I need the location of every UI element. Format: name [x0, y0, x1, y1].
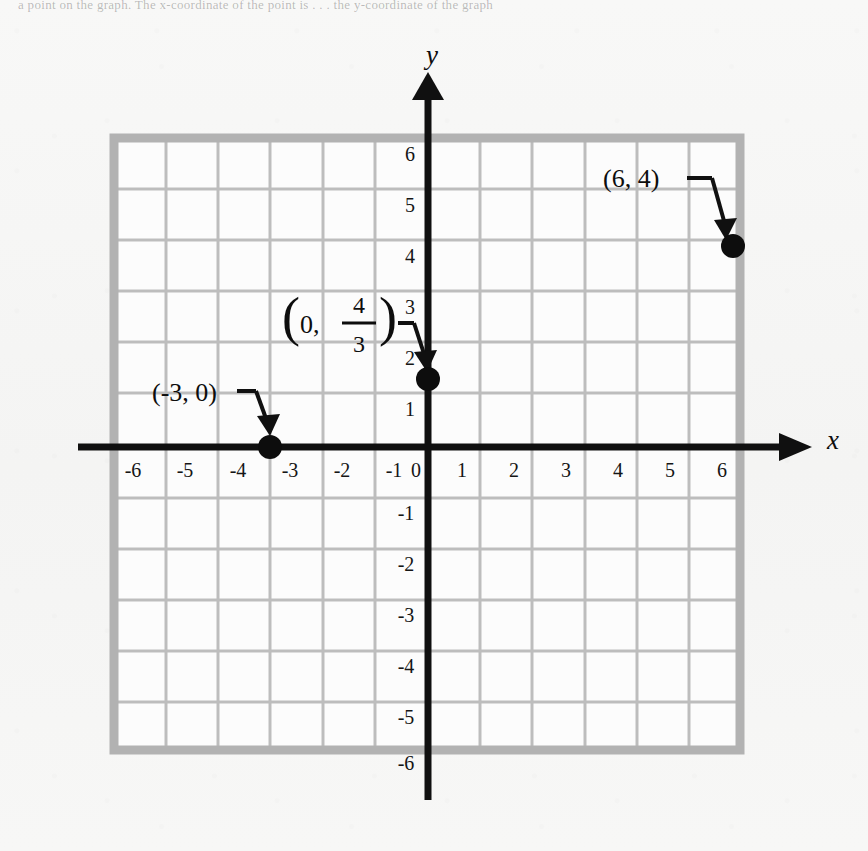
x-tick-5: 5 [665, 459, 675, 481]
y-tick--1: -1 [398, 502, 415, 524]
y-tick-3: 3 [405, 296, 415, 318]
annotation-label-6-4: (6, 4) [603, 164, 659, 193]
y-tick-1: 1 [405, 398, 415, 420]
annotation-paren-open-fourthirds: ( [282, 287, 300, 347]
y-tick--6: -6 [398, 752, 415, 774]
x-tick-4: 4 [613, 459, 623, 481]
graph-svg: x y -6 -5 -4 -3 -2 -1 0 1 2 3 4 5 6 6 5 … [0, 0, 868, 851]
y-tick-5: 5 [405, 194, 415, 216]
y-tick--5: -5 [398, 706, 415, 728]
x-tick--6: -6 [125, 459, 142, 481]
coordinate-plane-figure: x y -6 -5 -4 -3 -2 -1 0 1 2 3 4 5 6 6 5 … [0, 0, 868, 851]
annotation-label-prefix-fourthirds: 0, [300, 310, 320, 339]
x-tick-3: 3 [561, 459, 571, 481]
x-tick-2: 2 [509, 459, 519, 481]
y-tick-2: 2 [405, 347, 415, 369]
x-tick-6: 6 [717, 459, 727, 481]
y-tick--3: -3 [398, 604, 415, 626]
x-tick--3: -3 [282, 459, 299, 481]
x-tick--2: -2 [334, 459, 351, 481]
x-axis-arrowhead-icon [779, 433, 812, 461]
data-point-0-fourthirds[interactable] [416, 367, 440, 391]
y-axis-arrowhead-icon [412, 72, 444, 100]
data-point-neg3-0[interactable] [258, 435, 282, 459]
x-tick--1: -1 [386, 459, 403, 481]
annotation-paren-close-fourthirds: ) [379, 287, 397, 347]
annotation-fraction-numerator: 4 [353, 292, 365, 318]
x-tick--4: -4 [230, 459, 247, 481]
y-tick-4: 4 [405, 245, 415, 267]
y-tick--2: -2 [398, 553, 415, 575]
y-tick--4: -4 [398, 655, 415, 677]
x-tick-0: 0 [411, 459, 421, 481]
annotation-label-neg3-0: (-3, 0) [152, 378, 217, 407]
x-tick--5: -5 [177, 459, 194, 481]
data-point-6-4[interactable] [721, 234, 745, 258]
x-axis-label: x [826, 425, 839, 455]
y-axis-label: y [423, 40, 438, 70]
x-tick-1: 1 [457, 459, 467, 481]
annotation-fraction-denominator: 3 [353, 331, 365, 357]
y-tick-6: 6 [405, 143, 415, 165]
